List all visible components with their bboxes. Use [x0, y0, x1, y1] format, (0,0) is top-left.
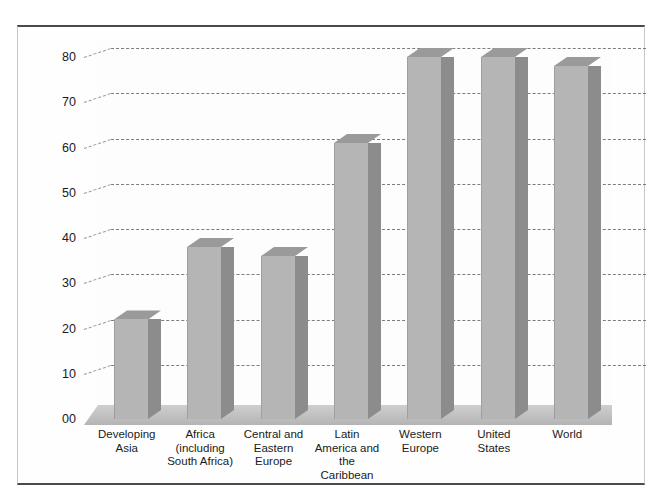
bar-top-face	[334, 134, 381, 143]
y-tick-label: 40	[46, 232, 76, 245]
x-axis-category-label: World	[531, 428, 604, 442]
bar-column	[261, 247, 308, 419]
bar-side-face	[221, 247, 234, 419]
y-tick-label: 20	[46, 323, 76, 336]
bar-column	[554, 57, 601, 419]
bar-column	[334, 134, 381, 419]
bar-side-face	[368, 143, 381, 419]
bar-column	[407, 48, 454, 419]
bar-top-face	[114, 310, 161, 319]
y-axis: 001020304050607080	[44, 0, 76, 502]
bar-side-face	[588, 66, 601, 419]
y-tick-label: 00	[46, 413, 76, 426]
y-tick-label: 50	[46, 187, 76, 200]
y-tick-label: 60	[46, 142, 76, 155]
bar-front-face	[334, 143, 369, 419]
gridline	[111, 48, 646, 49]
x-axis-category-label: Latin America and the Caribbean	[310, 428, 383, 482]
x-axis-category-label: Central and Eastern Europe	[237, 428, 310, 469]
bar-front-face	[261, 256, 296, 419]
bar-top-face	[481, 48, 528, 57]
bar-front-face	[407, 57, 442, 419]
y-tick-label: 30	[46, 277, 76, 290]
bar-front-face	[187, 247, 222, 419]
bar-column	[187, 238, 234, 419]
bar-column	[114, 310, 161, 419]
x-axis-category-label: United States	[457, 428, 530, 455]
bar-top-face	[554, 57, 601, 66]
x-axis-category-label: Developing Asia	[90, 428, 163, 455]
y-tick-label: 10	[46, 368, 76, 381]
x-axis-category-label: Western Europe	[384, 428, 457, 455]
bar-top-face	[407, 48, 454, 57]
chart-page: 001020304050607080 Developing AsiaAfrica…	[0, 0, 662, 502]
bar-front-face	[114, 319, 149, 419]
bar-top-face	[261, 247, 308, 256]
bar-side-face	[441, 57, 454, 419]
bar-front-face	[554, 66, 589, 419]
bar-top-face	[187, 238, 234, 247]
bar-side-face	[295, 256, 308, 419]
bar-side-face	[515, 57, 528, 419]
bar-column	[481, 48, 528, 419]
bar-front-face	[481, 57, 516, 419]
bar-side-face	[148, 319, 161, 419]
y-tick-label: 70	[46, 96, 76, 109]
y-tick-label: 80	[46, 51, 76, 64]
x-axis-category-label: Africa (including South Africa)	[163, 428, 236, 469]
